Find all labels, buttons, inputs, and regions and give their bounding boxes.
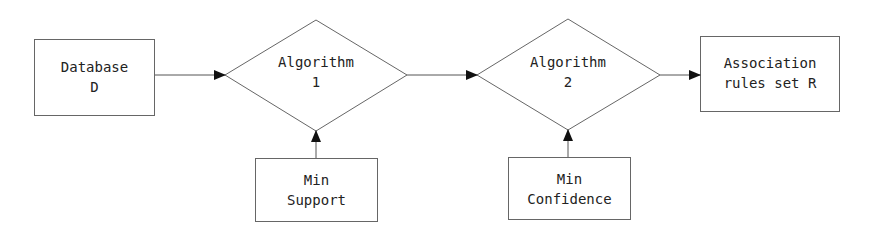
algorithm2-line2: 2 bbox=[508, 72, 628, 92]
algorithm1-line2: 1 bbox=[256, 72, 376, 92]
rules-line1: Association bbox=[700, 53, 840, 73]
min-confidence-label: Min Confidence bbox=[508, 169, 631, 209]
database-line1: Database bbox=[34, 57, 155, 77]
algorithm1-label: Algorithm 1 bbox=[256, 52, 376, 92]
algorithm1-line1: Algorithm bbox=[256, 52, 376, 72]
min-confidence-line1: Min bbox=[508, 169, 631, 189]
algorithm2-line1: Algorithm bbox=[508, 52, 628, 72]
database-line2: D bbox=[34, 77, 155, 97]
min-support-label: Min Support bbox=[255, 170, 378, 210]
rules-line2: rules set R bbox=[700, 73, 840, 93]
min-support-line1: Min bbox=[255, 170, 378, 190]
min-confidence-line2: Confidence bbox=[508, 189, 631, 209]
database-label: Database D bbox=[34, 57, 155, 97]
flowchart-canvas bbox=[0, 0, 874, 230]
min-support-line2: Support bbox=[255, 190, 378, 210]
algorithm2-label: Algorithm 2 bbox=[508, 52, 628, 92]
rules-label: Association rules set R bbox=[700, 53, 840, 93]
